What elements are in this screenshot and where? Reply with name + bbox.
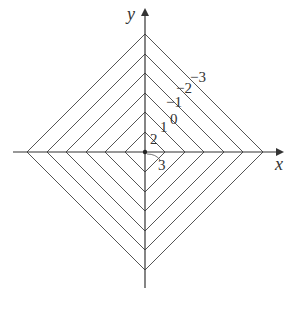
- level-label: 3: [158, 157, 166, 173]
- level-label: 1: [160, 119, 168, 135]
- y-axis-label: y: [125, 4, 135, 24]
- level-label: 2: [150, 131, 158, 147]
- level-label: −1: [166, 94, 182, 110]
- level-label: −3: [190, 69, 206, 85]
- level-label: 0: [170, 111, 178, 127]
- level-curves-diagram: x y 3210−1−2−3: [0, 0, 288, 310]
- diagram-canvas: x y 3210−1−2−3: [0, 0, 288, 310]
- level-labels: 3210−1−2−3: [150, 69, 206, 173]
- x-axis-label: x: [274, 154, 283, 174]
- origin-point: [143, 150, 147, 154]
